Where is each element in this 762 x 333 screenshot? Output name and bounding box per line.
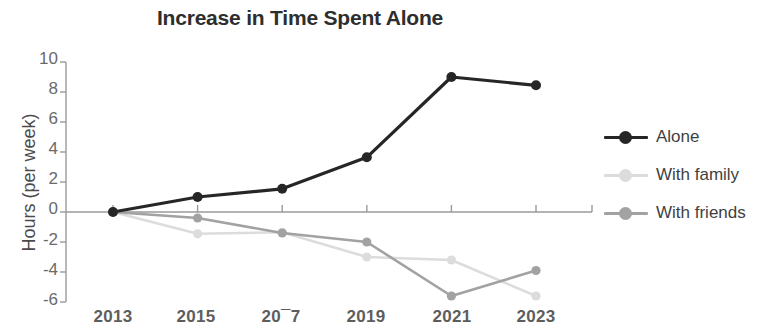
chart-figure: Increase in Time Spent Alone Hours (per …	[0, 0, 762, 333]
data-point	[193, 229, 202, 238]
data-point	[362, 152, 372, 162]
axis-lines	[60, 62, 592, 302]
series-lines	[108, 72, 541, 301]
legend-label: With friends	[656, 203, 746, 223]
data-point	[447, 291, 456, 300]
x-tick-label: 2019	[326, 307, 406, 327]
data-point	[277, 184, 287, 194]
data-point	[193, 192, 203, 202]
x-tick-label: 20¯7	[241, 307, 321, 327]
chart-legend: Alone With family With friends	[604, 118, 762, 232]
legend-marker-icon	[604, 204, 648, 222]
series-line	[113, 77, 536, 212]
legend-item-alone[interactable]: Alone	[604, 118, 762, 156]
legend-label: With family	[656, 165, 739, 185]
legend-item-with-family[interactable]: With family	[604, 156, 762, 194]
x-tick-label: 2015	[156, 307, 236, 327]
data-point	[531, 266, 540, 275]
series-with-family	[108, 207, 540, 300]
data-point	[278, 228, 287, 237]
legend-marker-icon	[604, 128, 648, 146]
x-tick-label: 2013	[73, 307, 153, 327]
legend-dot-0	[619, 131, 632, 144]
data-point	[531, 291, 540, 300]
legend-marker-icon	[604, 166, 648, 184]
legend-item-with-friends[interactable]: With friends	[604, 194, 762, 232]
data-point	[193, 213, 202, 222]
series-alone	[108, 72, 541, 217]
data-point	[108, 207, 118, 217]
data-point	[447, 255, 456, 264]
series-line	[113, 212, 536, 296]
legend-dot-2	[619, 207, 632, 220]
x-tick-label: 2021	[412, 307, 492, 327]
x-tick-label: 2023	[496, 307, 576, 327]
data-point	[362, 252, 371, 261]
series-with-friends	[108, 207, 540, 300]
legend-dot-1	[619, 169, 632, 182]
data-point	[531, 80, 541, 90]
data-point	[362, 237, 371, 246]
series-line	[113, 212, 536, 296]
data-point	[446, 72, 456, 82]
legend-label: Alone	[656, 127, 699, 147]
